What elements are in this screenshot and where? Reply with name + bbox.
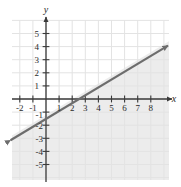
x-tick-label: 6: [122, 103, 127, 113]
x-axis-label: x: [171, 93, 177, 104]
y-tick-label: 1: [35, 81, 40, 91]
y-tick-label: 5: [35, 29, 40, 39]
y-tick-label: -2: [36, 121, 44, 131]
x-tick-label: 8: [149, 103, 154, 113]
x-tick-label: 1: [57, 103, 62, 113]
x-tick-label: 7: [135, 103, 140, 113]
x-tick-label: 2: [70, 103, 75, 113]
coordinate-plane-figure: -2 -1 1 2 3 4 5 6 7 8 5 4 3 2 1 -1 -2 -3…: [0, 0, 181, 187]
x-tick-label: 4: [96, 103, 101, 113]
y-axis-label: y: [43, 4, 49, 15]
y-tick-label: -5: [36, 160, 44, 170]
graph-svg: -2 -1 1 2 3 4 5 6 7 8 5 4 3 2 1 -1 -2 -3…: [0, 0, 181, 187]
y-tick-label: 3: [35, 55, 40, 65]
x-tick-label: 5: [109, 103, 114, 113]
y-tick-label: -3: [36, 134, 44, 144]
x-tick-label: -2: [16, 103, 24, 113]
y-tick-label: 4: [35, 42, 40, 52]
y-tick-label: -1: [36, 110, 44, 120]
y-tick-label: 2: [35, 68, 40, 78]
x-tick-label: 3: [83, 103, 88, 113]
y-tick-label: -4: [36, 147, 44, 157]
